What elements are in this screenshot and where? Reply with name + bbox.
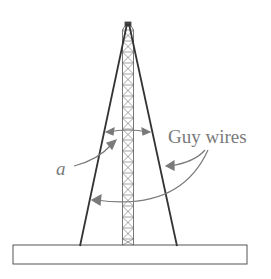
guy-wires-arrows (92, 150, 208, 205)
base-slab (13, 245, 247, 264)
angle-label-arrow (74, 140, 116, 166)
tower-lattice (123, 30, 134, 245)
guy-wires-label: Guy wires (168, 126, 247, 147)
tower-diagram: Guy wires a (0, 0, 271, 279)
left-guy-wire (80, 24, 127, 246)
angle-label: a (56, 158, 66, 179)
